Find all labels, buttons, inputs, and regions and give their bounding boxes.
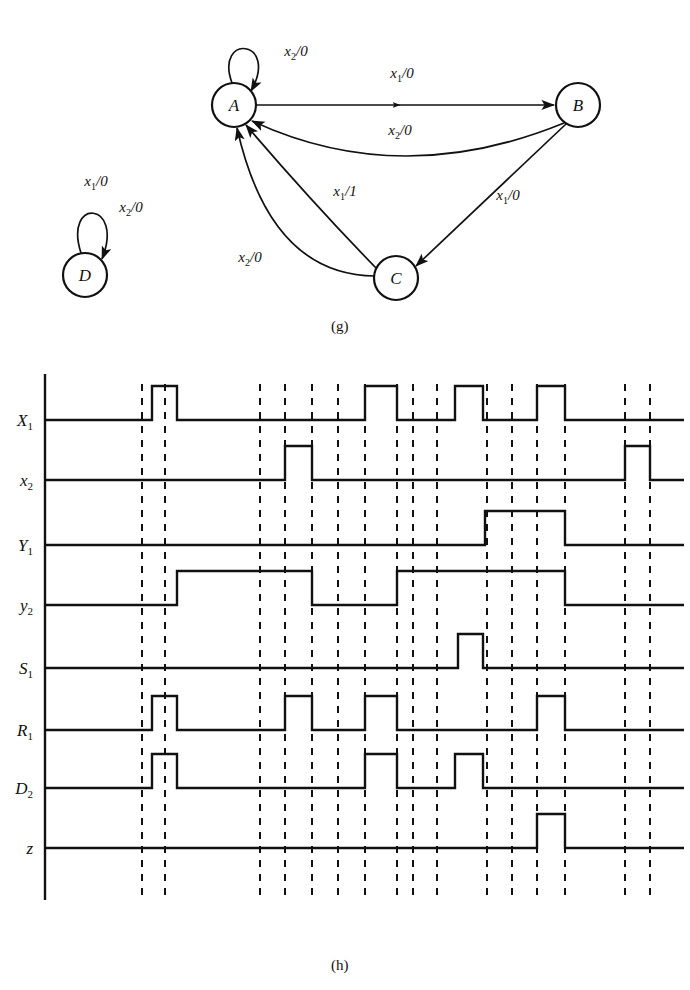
caption-g: (g): [331, 318, 349, 335]
signal-label-D2: D2: [14, 779, 33, 800]
edge-B-to-C: [416, 124, 566, 266]
timing-diagram: X1x2Y1y2S1R1D2z: [14, 374, 684, 900]
state-node-label-D: D: [78, 266, 92, 285]
signal-label-S1: S1: [19, 659, 33, 680]
caption-h: (h): [331, 957, 349, 974]
edge-label-B-C-3: x1/0: [495, 187, 520, 206]
edge-label-A-A-0: x2/0: [283, 43, 308, 62]
signal-label-R1: R1: [16, 721, 33, 742]
waveform-R1[interactable]: [45, 696, 684, 730]
edge-label-B-A-2: x2/0: [387, 122, 412, 141]
state-node-label-A: A: [228, 96, 240, 115]
waveform-X1[interactable]: [45, 386, 684, 420]
figure-container: ABCDx2/0x1/0x2/0x1/0x1/1x2/0x1/0x2/0 X1x…: [0, 0, 690, 990]
signal-label-x2: x2: [19, 471, 33, 492]
state-node-label-C: C: [390, 269, 402, 288]
edge-label-A-B-1: x1/0: [389, 65, 414, 84]
edge-label-D-D-7: x2/0: [118, 199, 143, 218]
signal-label-Y1: Y1: [18, 536, 33, 557]
waveform-D2[interactable]: [45, 754, 684, 788]
state-node-label-B: B: [573, 96, 584, 115]
edge-label-C-A-4: x1/1: [332, 183, 356, 202]
edge-label-C-A-5: x2/0: [237, 249, 262, 268]
signal-label-X1: X1: [16, 411, 33, 432]
signal-label-z: z: [25, 839, 33, 858]
figure-svg: ABCDx2/0x1/0x2/0x1/0x1/1x2/0x1/0x2/0 X1x…: [0, 0, 690, 990]
state-diagram: ABCDx2/0x1/0x2/0x1/0x1/1x2/0x1/0x2/0: [63, 43, 600, 300]
signal-label-y2: y2: [18, 596, 33, 617]
edge-label-D-D-6: x1/0: [83, 173, 108, 192]
